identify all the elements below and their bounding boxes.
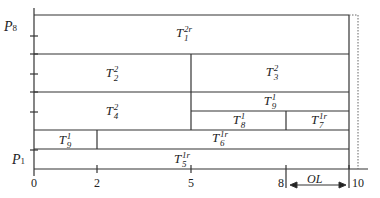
x-tick-0: 0	[31, 176, 37, 191]
task-t7: T1r7	[311, 112, 327, 130]
task-t2: T22	[106, 65, 119, 83]
task-t1: T2r1	[176, 25, 192, 43]
task-t4: T24	[106, 103, 119, 121]
ol-label: OL	[307, 172, 322, 187]
task-t5: T1r5	[174, 151, 190, 169]
x-tick-8: 8	[278, 176, 284, 191]
x-tick-5: 5	[188, 176, 194, 191]
task-t9-lower: T19	[59, 132, 72, 150]
x-tick-10: 10	[352, 176, 364, 191]
y-label-bottom: P1	[12, 152, 25, 168]
task-t8: T18	[233, 112, 246, 130]
y-label-top: P8	[4, 19, 17, 35]
task-t9-upper: T19	[264, 93, 277, 111]
task-t3: T23	[266, 64, 279, 82]
x-tick-2: 2	[94, 176, 100, 191]
task-t6: T1r6	[212, 130, 228, 148]
